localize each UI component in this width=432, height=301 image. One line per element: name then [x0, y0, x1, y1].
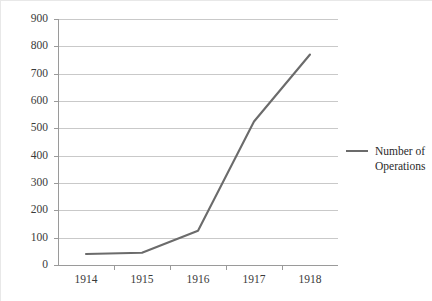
- y-tick-label-100: 100: [31, 232, 48, 244]
- y-tick-label-800: 800: [31, 40, 48, 52]
- x-tick-label-1914: 1914: [58, 274, 114, 286]
- y-tick-mark-500: [54, 128, 58, 129]
- plot-area: [58, 19, 338, 265]
- y-tick-label-900: 900: [31, 13, 48, 25]
- x-tick-mark-2: [170, 265, 171, 270]
- y-tick-mark-800: [54, 46, 58, 47]
- y-tick-label-500: 500: [31, 122, 48, 134]
- x-tick-label-1915: 1915: [114, 274, 170, 286]
- y-tick-mark-300: [54, 183, 58, 184]
- y-tick-label-700: 700: [31, 68, 48, 80]
- x-tick-label-1917: 1917: [226, 274, 282, 286]
- x-tick-mark-4: [282, 265, 283, 270]
- x-tick-label-1918: 1918: [282, 274, 338, 286]
- y-tick-mark-700: [54, 74, 58, 75]
- y-tick-label-200: 200: [31, 204, 48, 216]
- y-axis-line: [58, 19, 59, 265]
- y-tick-label-0: 0: [42, 259, 48, 271]
- y-tick-mark-100: [54, 238, 58, 239]
- x-axis-line: [58, 265, 338, 266]
- x-tick-label-1916: 1916: [170, 274, 226, 286]
- y-tick-mark-200: [54, 210, 58, 211]
- x-tick-mark-1: [114, 265, 115, 270]
- x-tick-mark-3: [226, 265, 227, 270]
- y-tick-mark-400: [54, 156, 58, 157]
- y-tick-mark-0: [54, 265, 58, 266]
- series-line: [86, 55, 310, 255]
- series-number-of-operations: [58, 19, 338, 265]
- y-tick-mark-900: [54, 19, 58, 20]
- y-tick-label-600: 600: [31, 95, 48, 107]
- y-tick-mark-600: [54, 101, 58, 102]
- legend-label-number-of-operations: Number of Operations: [375, 144, 432, 174]
- y-tick-label-300: 300: [31, 177, 48, 189]
- legend-label-line-1: Number of: [375, 144, 432, 159]
- legend-swatch-number-of-operations: [346, 150, 368, 152]
- legend-label-line-2: Operations: [375, 159, 432, 174]
- legend: Number of Operations: [346, 144, 432, 174]
- y-tick-label-400: 400: [31, 150, 48, 162]
- line-chart: 0100200300400500600700800900 19141915191…: [0, 0, 432, 301]
